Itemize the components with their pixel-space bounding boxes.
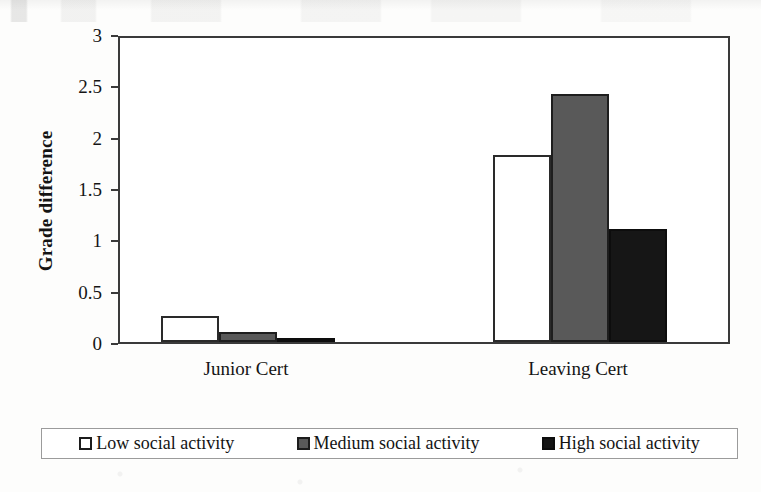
bar-low-leaving-cert [493,155,551,342]
y-axis-tick-mark [111,86,118,88]
y-axis-tick-mark [111,189,118,191]
high-swatch-icon [542,437,555,450]
bar-low-junior-cert [161,316,219,342]
y-axis-tick-label: 2 [32,128,102,150]
legend-label: High social activity [559,433,700,454]
y-axis-tick-mark [111,292,118,294]
y-axis-tick-mark [111,138,118,140]
bar-high-junior-cert [277,338,335,342]
y-axis-tick-label: 1.5 [32,179,102,201]
plot-inner [120,38,728,342]
scan-artifact-shadow [0,0,761,10]
y-axis-tick-label: 3 [32,25,102,47]
plot-area [118,36,730,344]
medium-swatch-icon [297,437,310,450]
x-axis-label-leaving-cert: Leaving Cert [478,358,678,380]
bar-medium-leaving-cert [551,94,609,342]
y-axis-tick-label: 0 [32,333,102,355]
bar-high-leaving-cert [609,229,667,342]
legend-entry-medium: Medium social activity [297,433,480,454]
y-axis-tick-mark [111,35,118,37]
chart-legend: Low social activityMedium social activit… [41,428,738,459]
legend-label: Low social activity [96,433,234,454]
y-axis-tick-mark [111,240,118,242]
y-axis-tick-label: 0.5 [32,282,102,304]
y-axis-tick-label: 2.5 [32,76,102,98]
scan-artifact-strip [0,0,761,22]
y-axis-tick-label: 1 [32,230,102,252]
low-swatch-icon [79,437,92,450]
bar-medium-junior-cert [219,332,277,342]
legend-entry-high: High social activity [542,433,700,454]
legend-entry-low: Low social activity [79,433,234,454]
legend-label: Medium social activity [314,433,480,454]
x-axis-label-junior-cert: Junior Cert [146,358,346,380]
bar-chart-figure: Grade difference 00.511.522.53 Junior Ce… [0,0,761,492]
y-axis-tick-mark [111,343,118,345]
page-speckle [0,462,761,492]
